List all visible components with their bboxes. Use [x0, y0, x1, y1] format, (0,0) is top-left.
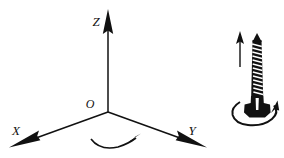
- diagram-svg: O Z X Y: [0, 0, 284, 158]
- screw-head-slot: [256, 98, 259, 110]
- screw-tip: [252, 33, 261, 42]
- rotation-arc-arrowhead: [129, 134, 142, 142]
- screw-translation-arrow: [236, 31, 244, 67]
- z-axis-arrowhead: [103, 9, 113, 34]
- coordinate-axes-group: O Z X Y: [9, 9, 207, 148]
- x-axis-label: X: [11, 123, 21, 138]
- y-axis-label: Y: [188, 123, 197, 138]
- y-axis-shaft: [108, 112, 180, 138]
- origin-rotation-arc: [91, 134, 141, 149]
- z-axis-label: Z: [92, 14, 100, 29]
- rotation-arc-curve: [91, 138, 136, 148]
- figure-canvas: O Z X Y: [0, 0, 284, 158]
- z-axis: [103, 9, 113, 112]
- screw-body: [244, 33, 271, 118]
- screw-rotation-arrowhead: [271, 101, 279, 114]
- origin-label: O: [86, 97, 95, 111]
- x-axis-shaft: [36, 112, 108, 138]
- screw-group: [232, 31, 279, 125]
